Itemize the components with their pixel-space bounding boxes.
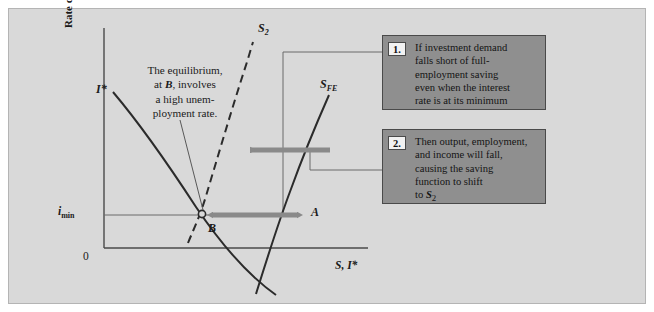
y-axis-tick-label-imin: imin: [58, 205, 75, 221]
curve-saving-full-employment: [256, 95, 329, 294]
annotation-line-2-post: , involves: [172, 78, 216, 90]
x-axis-label: S, I*: [335, 259, 357, 272]
point-B-label: B: [208, 222, 216, 235]
sfe-sub: FE: [327, 84, 338, 93]
callout-2-number: 2.: [388, 136, 406, 150]
annotation-leader-line: [180, 120, 203, 210]
callout-box-2: 2. Then output, employment, and income w…: [382, 129, 546, 204]
annotation-line-2-pre: at: [154, 78, 165, 90]
s2-main: S: [258, 21, 265, 35]
imin-sub: min: [61, 211, 74, 220]
curve-label-saving-shifted: S2: [258, 22, 269, 38]
point-B-marker: [198, 210, 205, 217]
chart-graphics: [0, 0, 654, 312]
callout-1-number: 1.: [388, 42, 406, 56]
callout-1-leader: [283, 52, 382, 215]
y-axis-label: Rate of interest: [62, 0, 74, 28]
curve-label-saving-full-employment: SFE: [320, 78, 337, 94]
annotation-line-3: a high unem-: [155, 93, 214, 105]
s2-sub: 2: [265, 28, 269, 37]
callout-box-1: 1. If investment demand falls short of f…: [382, 35, 546, 110]
annotation-line-4: ployment rate.: [153, 107, 218, 119]
callout-2-text-subscript: 2: [432, 193, 436, 203]
annotation-line-1: The equilibrium,: [147, 64, 222, 76]
curve-investment-demand: [113, 92, 276, 295]
point-A-label: A: [311, 206, 319, 219]
callout-1-text: If investment demand falls short of full…: [415, 41, 510, 108]
curve-label-investment: I*: [96, 83, 107, 96]
origin-label: 0: [83, 250, 89, 263]
callout-2-text: Then output, employment, and income will…: [415, 135, 527, 205]
figure-container: Rate of interest S, I* 0 imin I* S2 SFE …: [0, 0, 654, 312]
sfe-main: S: [320, 77, 327, 91]
callout-2-leader: [310, 150, 382, 170]
annotation-equilibrium: The equilibrium, at B, involves a high u…: [126, 63, 244, 120]
